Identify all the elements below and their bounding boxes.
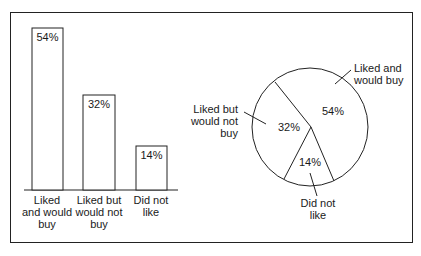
pie-category-label: like: [310, 209, 327, 221]
pie-value-label: 32%: [278, 121, 300, 133]
pie-category-label: buy: [220, 127, 238, 139]
pie-outline: [252, 68, 368, 186]
charts-canvas: 54% 32% 14% Liked and would buy Liked bu…: [0, 0, 421, 256]
bar-category-label: and would: [22, 206, 72, 218]
pie-chart: 54% 32% 14% Liked and would buy Liked bu…: [190, 62, 404, 221]
bar-value-label: 32%: [88, 98, 110, 110]
pie-value-label: 14%: [299, 156, 321, 168]
bar-category-label: buy: [38, 218, 56, 230]
pie-value-label: 54%: [322, 105, 344, 117]
bar-category-label: Liked but: [77, 194, 122, 206]
bar-value-label: 54%: [36, 31, 58, 43]
pie-category-label: would not: [190, 115, 238, 127]
bar-chart: 54% 32% 14% Liked and would buy Liked bu…: [22, 28, 178, 230]
pie-category-label: Did not: [301, 197, 336, 209]
bar-liked-would-buy: [32, 28, 63, 190]
bar-category-label: Did not: [134, 194, 169, 206]
pie-category-label: Liked and: [354, 62, 402, 74]
bar-category-label: like: [143, 206, 160, 218]
bar-category-label: Liked: [34, 194, 60, 206]
bar-category-label: buy: [90, 218, 108, 230]
bar-value-label: 14%: [140, 149, 162, 161]
bar-category-label: would not: [74, 206, 122, 218]
pie-category-label: would buy: [353, 74, 404, 86]
pie-category-label: Liked but: [193, 103, 238, 115]
